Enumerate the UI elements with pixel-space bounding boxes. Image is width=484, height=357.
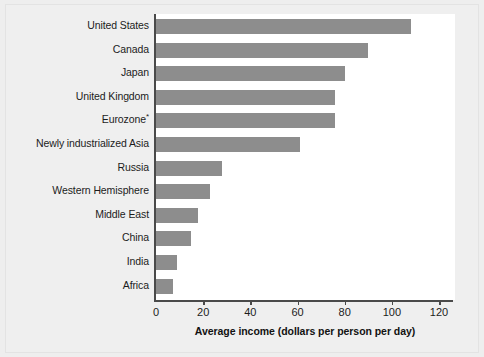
bar-category-label: India [0, 255, 149, 267]
bar[interactable] [156, 255, 177, 270]
x-axis-tick-label: 80 [325, 306, 365, 318]
bar-row[interactable]: Japan [0, 63, 484, 86]
bar-chart: United StatesCanadaJapanUnited KingdomEu… [0, 0, 484, 357]
bar-row[interactable]: United States [0, 16, 484, 39]
bar-category-label: Newly industrialized Asia [0, 137, 149, 149]
bar-row[interactable]: Western Hemisphere [0, 181, 484, 204]
bar-row[interactable]: Africa [0, 276, 484, 299]
x-axis-tick-label: 120 [419, 306, 459, 318]
bar-row[interactable]: China [0, 228, 484, 251]
bar-category-label: Japan [0, 66, 149, 78]
footnote-marker: * [146, 112, 149, 121]
bar-row[interactable]: Canada [0, 40, 484, 63]
bar[interactable] [156, 161, 222, 176]
x-axis-line [154, 300, 453, 302]
x-axis-title: Average income (dollars per person per d… [155, 325, 455, 337]
bar[interactable] [156, 231, 191, 246]
bar[interactable] [156, 90, 335, 105]
bar-category-label: Eurozone* [0, 113, 149, 125]
bar[interactable] [156, 19, 411, 34]
bar[interactable] [156, 208, 198, 223]
x-axis-tick [439, 300, 441, 305]
x-axis-tick [345, 300, 347, 305]
bar-category-label: Middle East [0, 208, 149, 220]
bar-category-label: United Kingdom [0, 90, 149, 102]
bar[interactable] [156, 43, 368, 58]
x-axis-tick-label: 20 [183, 306, 223, 318]
x-axis-tick [250, 300, 252, 305]
chart-page: United StatesCanadaJapanUnited KingdomEu… [0, 0, 484, 357]
x-axis-tick-label: 40 [230, 306, 270, 318]
x-axis-tick-label: 0 [136, 306, 176, 318]
bar-row[interactable]: Newly industrialized Asia [0, 134, 484, 157]
bar-category-label: United States [0, 19, 149, 31]
bar-row[interactable]: United Kingdom [0, 87, 484, 110]
x-axis-tick-label: 100 [372, 306, 412, 318]
bar[interactable] [156, 137, 300, 152]
bar-category-label: Russia [0, 161, 149, 173]
bar-row[interactable]: Russia [0, 158, 484, 181]
bar-row[interactable]: India [0, 252, 484, 275]
bar-row[interactable]: Eurozone* [0, 110, 484, 133]
x-axis-tick [298, 300, 300, 305]
bar[interactable] [156, 66, 345, 81]
bar-category-label: Africa [0, 279, 149, 291]
bar-category-label: Canada [0, 43, 149, 55]
bar-category-label: Western Hemisphere [0, 184, 149, 196]
bar[interactable] [156, 184, 210, 199]
bar[interactable] [156, 279, 173, 294]
bar-row[interactable]: Middle East [0, 205, 484, 228]
bar[interactable] [156, 113, 335, 128]
x-axis-tick [392, 300, 394, 305]
x-axis-tick-label: 60 [278, 306, 318, 318]
x-axis-tick [203, 300, 205, 305]
bar-category-label: China [0, 231, 149, 243]
